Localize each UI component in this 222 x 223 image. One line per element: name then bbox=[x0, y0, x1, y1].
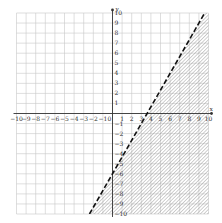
svg-text:−8: −8 bbox=[115, 190, 124, 197]
svg-text:8: 8 bbox=[115, 29, 119, 36]
svg-text:x: x bbox=[210, 105, 214, 112]
svg-text:3: 3 bbox=[115, 79, 119, 86]
svg-text:−1: −1 bbox=[98, 115, 107, 122]
svg-text:7: 7 bbox=[178, 115, 182, 122]
svg-text:−5: −5 bbox=[60, 115, 69, 122]
svg-text:6: 6 bbox=[115, 49, 119, 56]
svg-text:9: 9 bbox=[197, 115, 201, 122]
svg-text:−5: −5 bbox=[115, 160, 124, 167]
svg-text:10: 10 bbox=[205, 115, 213, 122]
svg-text:−9: −9 bbox=[22, 115, 31, 122]
svg-text:−7: −7 bbox=[41, 115, 50, 122]
svg-text:8: 8 bbox=[187, 115, 191, 122]
svg-text:6: 6 bbox=[168, 115, 172, 122]
svg-text:−2: −2 bbox=[115, 130, 124, 137]
svg-text:y: y bbox=[115, 5, 120, 13]
svg-text:−9: −9 bbox=[115, 200, 124, 207]
coordinate-plane: −10−9−8−7−6−5−4−3−2−112345678910−10−9−8−… bbox=[0, 0, 222, 223]
svg-text:−4: −4 bbox=[70, 115, 79, 122]
svg-text:7: 7 bbox=[115, 39, 119, 46]
svg-text:0: 0 bbox=[108, 115, 112, 122]
svg-text:−1: −1 bbox=[115, 120, 124, 127]
svg-text:3: 3 bbox=[139, 115, 143, 122]
svg-text:−2: −2 bbox=[89, 115, 98, 122]
svg-text:−6: −6 bbox=[115, 170, 124, 177]
svg-text:−8: −8 bbox=[31, 115, 40, 122]
svg-text:−3: −3 bbox=[79, 115, 88, 122]
svg-text:−3: −3 bbox=[115, 140, 124, 147]
svg-text:−6: −6 bbox=[50, 115, 59, 122]
svg-text:9: 9 bbox=[115, 19, 119, 26]
svg-text:4: 4 bbox=[149, 115, 153, 122]
svg-text:−7: −7 bbox=[115, 180, 124, 187]
svg-text:−4: −4 bbox=[115, 150, 124, 157]
svg-text:−10: −10 bbox=[115, 210, 128, 217]
svg-text:2: 2 bbox=[130, 115, 134, 122]
svg-text:1: 1 bbox=[115, 99, 119, 106]
svg-text:2: 2 bbox=[115, 89, 119, 96]
svg-text:5: 5 bbox=[159, 115, 163, 122]
svg-text:5: 5 bbox=[115, 59, 119, 66]
svg-text:4: 4 bbox=[115, 69, 119, 76]
